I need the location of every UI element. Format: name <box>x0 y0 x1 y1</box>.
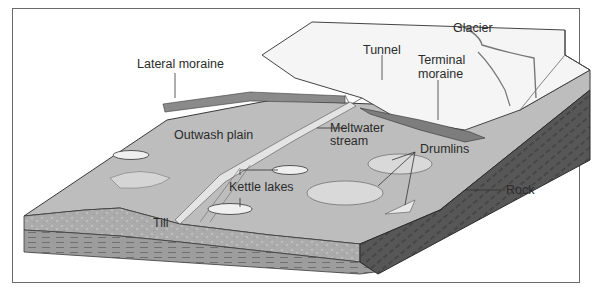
kettle-lake-1 <box>113 151 149 160</box>
glacial-landforms-block-diagram <box>0 0 595 292</box>
label-kettle-lakes: Kettle lakes <box>229 181 294 194</box>
label-tunnel: Tunnel <box>363 44 401 57</box>
label-terminal-moraine-line2: moraine <box>418 68 463 81</box>
label-rock: Rock <box>506 184 534 197</box>
label-outwash-plain: Outwash plain <box>174 129 253 142</box>
label-till: Till <box>153 217 169 230</box>
kettle-lake-3 <box>208 204 252 215</box>
drumlin-2 <box>307 181 383 205</box>
label-drumlins: Drumlins <box>420 143 469 156</box>
label-meltwater-stream-line2: stream <box>330 135 368 148</box>
label-glacier: Glacier <box>453 22 493 35</box>
label-terminal-moraine-line1: Terminal <box>418 54 465 67</box>
label-lateral-moraine: Lateral moraine <box>137 58 224 71</box>
